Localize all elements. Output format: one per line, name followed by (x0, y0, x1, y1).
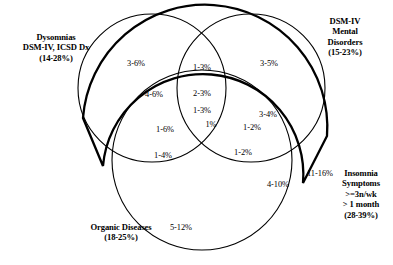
region-dysomnias-mental-organic: 1-3% (193, 106, 211, 115)
set-label-organic-diseases: Organic Diseases (18-25%) (56, 222, 186, 243)
region-mental-insomnia: 3-4% (259, 110, 277, 119)
region-dysomnias-insomnia: 4-6% (145, 90, 163, 99)
venn-diagram: Dysomnias DSM-IV, ICSD Dx (14-28%) DSM-I… (0, 0, 393, 265)
region-dysomnias-mental: 1-3% (193, 63, 211, 72)
region-organic-insomnia: 4-10% (267, 180, 289, 189)
region-insomnia-only: 11-16% (307, 169, 333, 178)
set-label-mental-disorders: DSM-IV Mental Disorders (15-23%) (300, 16, 390, 58)
set-label-insomnia-symptoms: Insomnia Symptoms >=3n/wk > 1 month (28-… (330, 168, 392, 220)
set-label-dysomnias: Dysomnias DSM-IV, ICSD Dx (14-28%) (4, 32, 108, 63)
region-all-four: 1% (205, 120, 216, 129)
region-mental-organic-insomnia: 1-2% (243, 123, 261, 132)
region-dysomnias-organic-insomnia: 1-6% (156, 125, 174, 134)
region-dysomnias-only: 3-6% (127, 59, 145, 68)
region-organic-only: 5-12% (170, 223, 192, 232)
region-mental-organic: 1-2% (234, 148, 252, 157)
region-dysomnias-mental-insomnia: 2-3% (193, 89, 211, 98)
caption-strip (0, 258, 393, 265)
region-dysomnias-organic: 1-4% (154, 151, 172, 160)
region-mental-only: 3-5% (260, 59, 278, 68)
